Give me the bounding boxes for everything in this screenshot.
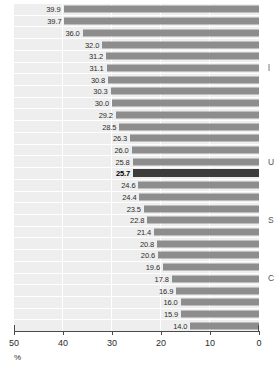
bar <box>154 229 259 236</box>
x-tick-label-20: 20 <box>156 338 166 348</box>
x-tick-40 <box>63 331 64 335</box>
bar-row: 20.6 <box>14 250 259 262</box>
bar-row: 29.2 <box>14 109 259 121</box>
bar-value-label: 24.6 <box>121 181 135 190</box>
bar <box>158 252 259 259</box>
bar-row: 26.0 <box>14 145 259 157</box>
x-tick-label-10: 10 <box>205 338 215 348</box>
bar-row: 21.4 <box>14 227 259 239</box>
bar <box>172 275 259 282</box>
bar-value-label: 25.8 <box>115 157 129 166</box>
x-tick-20 <box>161 331 162 335</box>
bar <box>181 311 259 318</box>
bar-highlighted <box>133 169 259 177</box>
bar-value-label: 29.2 <box>99 110 113 119</box>
bar-value-label: 26.3 <box>113 134 127 143</box>
bar-value-label: 15.9 <box>164 310 178 319</box>
x-tick-0 <box>259 331 260 335</box>
x-tick-30 <box>112 331 113 335</box>
x-tick-10 <box>210 331 211 335</box>
bar-value-label: 16.0 <box>163 298 177 307</box>
bar-row: 32.0 <box>14 39 259 51</box>
bar-row: 24.4 <box>14 192 259 204</box>
bar-value-label: 20.8 <box>140 239 154 248</box>
bar-value-label: 16.9 <box>159 286 173 295</box>
bar-row: 25.7 <box>14 168 259 180</box>
bar-row: 19.6 <box>14 262 259 274</box>
bar-value-label: 30.0 <box>95 99 109 108</box>
bar-value-label: 39.7 <box>47 17 61 26</box>
bar-row: 36.0 <box>14 27 259 39</box>
bar-row: 17.8 <box>14 274 259 286</box>
bar-row: 39.9 <box>14 4 259 16</box>
bar-row: 16.9 <box>14 285 259 297</box>
x-tick-50 <box>14 331 15 335</box>
x-tick-label-50: 50 <box>9 338 19 348</box>
bar-row: 26.3 <box>14 133 259 145</box>
category-label-truncated: S <box>268 215 274 225</box>
bar <box>83 29 259 36</box>
bar-row: 39.7 <box>14 16 259 28</box>
bar <box>102 41 259 48</box>
bar <box>190 322 259 329</box>
bar-row: 16.0 <box>14 297 259 309</box>
bar-row: 30.8 <box>14 74 259 86</box>
bar <box>139 193 259 200</box>
bar-value-label: 31.2 <box>89 52 103 61</box>
bar <box>163 264 259 271</box>
bar-value-label: 20.6 <box>141 251 155 260</box>
bar <box>181 299 259 306</box>
bar <box>144 205 259 212</box>
bar-row: 31.1 <box>14 63 259 75</box>
bar-value-label: 21.4 <box>137 228 151 237</box>
bar <box>130 135 259 142</box>
x-axis-unit-label: % <box>14 353 21 362</box>
category-label-truncated: l <box>268 63 270 73</box>
bar-value-label: 17.8 <box>155 274 169 283</box>
bar-row: 30.0 <box>14 98 259 110</box>
bar <box>64 18 259 25</box>
bar <box>108 76 259 83</box>
bar <box>116 111 259 118</box>
bar <box>147 217 259 224</box>
bar-value-label: 25.7 <box>116 169 130 178</box>
bar-value-label: 24.4 <box>122 192 136 201</box>
bar-value-label: 30.8 <box>91 75 105 84</box>
bar <box>157 240 259 247</box>
bar-value-label: 36.0 <box>65 28 79 37</box>
bar-row: 24.6 <box>14 180 259 192</box>
bar-value-label: 39.9 <box>46 5 60 14</box>
bar-row: 28.5 <box>14 121 259 133</box>
bar <box>133 158 259 165</box>
bar-row: 14.0 <box>14 320 259 331</box>
bar-value-label: 26.0 <box>114 145 128 154</box>
bar <box>106 53 259 60</box>
category-label-truncated: U <box>268 157 274 167</box>
bar-rows: 39.939.736.032.031.231.130.830.330.029.2… <box>14 4 259 331</box>
bar <box>112 100 259 107</box>
bar-row: 31.2 <box>14 51 259 63</box>
bar <box>111 88 259 95</box>
bar-value-label: 30.3 <box>93 87 107 96</box>
bar-value-label: 22.8 <box>130 216 144 225</box>
bar-value-label: 28.5 <box>102 122 116 131</box>
bar <box>119 123 259 130</box>
bar-value-label: 14.0 <box>173 321 187 330</box>
bar-value-label: 23.5 <box>127 204 141 213</box>
plot-area: 39.939.736.032.031.231.130.830.330.029.2… <box>14 4 259 331</box>
x-tick-label-30: 30 <box>107 338 117 348</box>
x-tick-label-40: 40 <box>58 338 68 348</box>
x-axis-line <box>14 331 259 332</box>
bar <box>107 64 259 71</box>
bar-value-label: 19.6 <box>146 263 160 272</box>
bar-value-label: 31.1 <box>89 63 103 72</box>
bar <box>176 287 259 294</box>
bar <box>64 6 260 13</box>
category-label-truncated: C <box>268 273 274 283</box>
bar-row: 15.9 <box>14 309 259 321</box>
bar-chart: 39.939.736.032.031.231.130.830.330.029.2… <box>0 0 280 370</box>
bar-row: 22.8 <box>14 215 259 227</box>
bar <box>138 182 259 189</box>
bar <box>132 146 259 153</box>
bar-value-label: 32.0 <box>85 40 99 49</box>
